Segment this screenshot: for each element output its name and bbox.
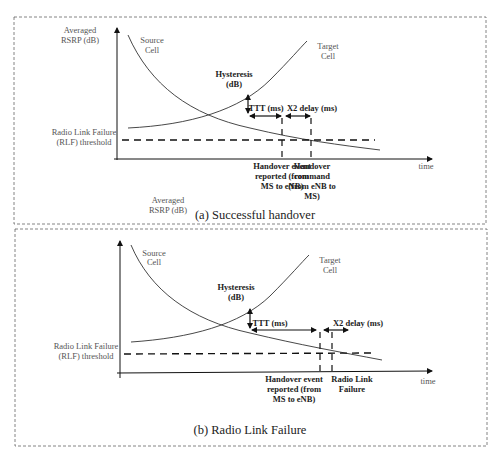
y-axis-label-line2: RSRP (dB) [61,35,99,45]
target-cell-curve [131,255,309,342]
source-cell-label-line2: Cell [145,45,160,55]
event2-label-line1: Radio Link [331,374,373,384]
time-label: time [418,161,433,171]
rlf-threshold-line [124,353,376,354]
target-cell-label-line2: Cell [321,51,336,61]
ttt-label: TTT (ms) [252,318,287,328]
event2-label-line2: Failure [339,384,366,394]
event2-label-line3: (from eNB to [288,181,336,191]
extra-y-label-line1: Averaged [152,195,185,205]
panel-a-caption: (a) Successful handover [195,208,316,222]
x2-delay-label: X2 delay (ms) [333,318,383,328]
rlf-label-line1: Radio Link Failure [54,341,119,351]
hysteresis-label-line1: Hysteresis [217,282,255,292]
source-cell-curve [131,245,382,360]
rlf-label-line1: Radio Link Failure [52,127,117,137]
event2-label-line2: command [294,171,330,181]
event1-label-line3: MS to eNB) [273,394,316,404]
event2-label-line1: Handover [294,161,331,171]
panel-a-border [14,17,486,224]
rlf-label-line2: (RLF) threshold [58,351,114,361]
y-axis-label-line1: Averaged [64,25,97,35]
x-axis [117,371,432,373]
target-cell-label-line2: Cell [323,265,338,275]
hysteresis-label-line2: (dB) [226,79,242,89]
extra-y-label-line2: RSRP (dB) [149,205,187,215]
ttt-label: TTT (ms) [248,103,283,113]
source-cell-label-line1: Source [140,35,164,45]
handover-diagram: Averaged RSRP (dB) Source Cell Target Ce… [0,0,500,457]
source-cell-label-line2: Cell [147,257,162,267]
hysteresis-label-line2: (dB) [228,292,244,302]
panel-b-border [15,229,487,446]
time-label: time [420,376,435,386]
event1-label-line2: reported (from [267,384,321,394]
panel-b: Source Cell Target Cell Hysteresis (dB) … [15,229,487,446]
x2-delay-label: X2 delay (ms) [287,103,337,113]
target-cell-label-line1: Target [317,41,339,51]
target-cell-label-line1: Target [319,255,341,265]
panel-a: Averaged RSRP (dB) Source Cell Target Ce… [14,17,486,224]
hysteresis-label-line1: Hysteresis [215,69,253,79]
panel-b-caption: (b) Radio Link Failure [194,423,307,437]
rlf-label-line2: (RLF) threshold [56,137,112,147]
event1-label-line1: Handover event [265,374,323,384]
event2-label-line4: MS) [304,191,320,201]
source-cell-curve [128,35,380,150]
